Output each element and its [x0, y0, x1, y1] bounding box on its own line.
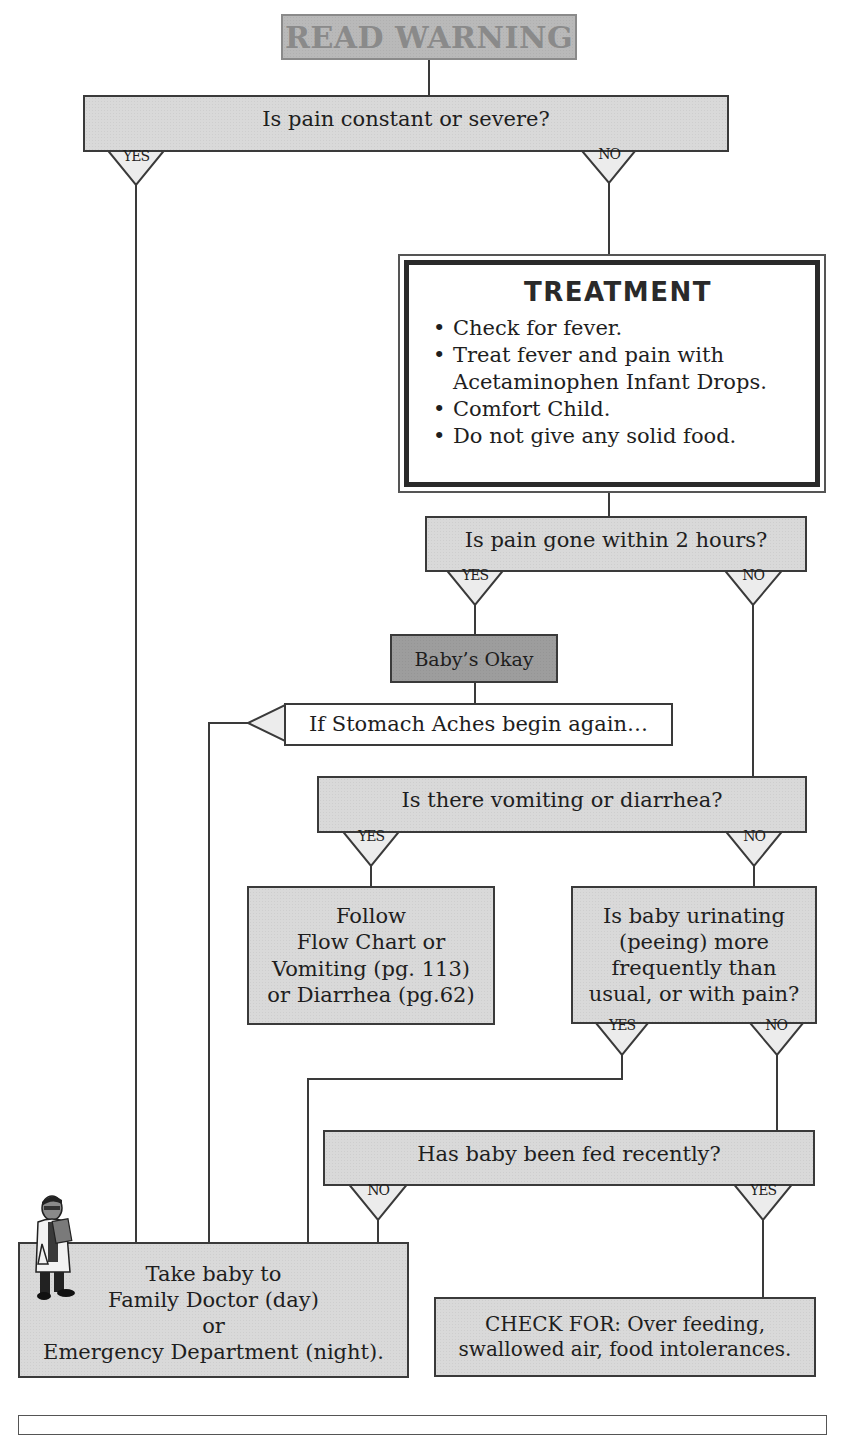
- treatment-item: Treat fever and pain with Acetaminophen …: [431, 342, 805, 396]
- branch-label-yes: YES: [455, 567, 495, 583]
- line: Vomiting (pg. 113): [272, 956, 470, 982]
- footer-note-box: [18, 1415, 827, 1435]
- question-pain-constant: Is pain constant or severe?: [83, 95, 729, 152]
- line: swallowed air, food intolerances.: [459, 1337, 792, 1362]
- branch-label-no: NO: [358, 1182, 398, 1198]
- branch-label-yes: YES: [351, 828, 391, 844]
- treatment-box: TREATMENT Check for fever. Treat fever a…: [398, 254, 826, 493]
- line: (peeing) more: [619, 929, 769, 955]
- doctor-illustration-icon: [30, 1192, 88, 1302]
- question-text: Is pain constant or severe?: [262, 107, 550, 132]
- line: frequently than: [612, 955, 777, 981]
- outcome-text: Baby’s Okay: [414, 648, 533, 670]
- line: or Diarrhea (pg.62): [267, 982, 474, 1008]
- line: Follow: [336, 903, 406, 929]
- question-text: Has baby been fed recently?: [417, 1142, 721, 1167]
- line: CHECK FOR: Over feeding,: [485, 1312, 765, 1337]
- stomach-aches-again-box: If Stomach Aches begin again…: [284, 703, 673, 746]
- branch-label-no: NO: [734, 828, 774, 844]
- line: usual, or with pain?: [589, 981, 800, 1007]
- question-fed-recently: Has baby been fed recently?: [323, 1130, 815, 1186]
- check-for-box: CHECK FOR: Over feeding, swallowed air, …: [434, 1297, 816, 1377]
- branch-label-no: NO: [733, 567, 773, 583]
- branch-label-no: NO: [589, 146, 629, 162]
- read-warning-box[interactable]: READ WARNING: [281, 14, 577, 60]
- line: Flow Chart or: [297, 929, 446, 955]
- note-text: If Stomach Aches begin again…: [309, 712, 648, 737]
- branch-label-yes: YES: [743, 1182, 783, 1198]
- line: Emergency Department (night).: [43, 1339, 384, 1365]
- treatment-inner-frame: TREATMENT Check for fever. Treat fever a…: [404, 260, 820, 487]
- treatment-item: Comfort Child.: [431, 396, 805, 423]
- treatment-list: Check for fever. Treat fever and pain wi…: [431, 315, 805, 450]
- line: Family Doctor (day): [108, 1287, 319, 1313]
- question-pain-gone: Is pain gone within 2 hours?: [425, 516, 807, 572]
- babys-okay-box: Baby’s Okay: [390, 634, 558, 683]
- question-text: Is pain gone within 2 hours?: [465, 528, 768, 553]
- branch-label-yes: YES: [602, 1017, 642, 1033]
- branch-label-yes: YES: [116, 148, 156, 164]
- question-text: Is there vomiting or diarrhea?: [401, 788, 722, 813]
- line: Is baby urinating: [603, 903, 785, 929]
- question-vomiting-diarrhea: Is there vomiting or diarrhea?: [317, 776, 807, 833]
- treatment-title: TREATMENT: [431, 277, 805, 307]
- read-warning-label: READ WARNING: [285, 20, 573, 55]
- line: or: [202, 1313, 225, 1339]
- treatment-item: Check for fever.: [431, 315, 805, 342]
- pointer-triangle-icon: [248, 705, 285, 741]
- follow-flowchart-box[interactable]: Follow Flow Chart or Vomiting (pg. 113) …: [247, 886, 495, 1025]
- branch-label-no: NO: [756, 1017, 796, 1033]
- question-urinating: Is baby urinating (peeing) more frequent…: [571, 886, 817, 1024]
- line: Take baby to: [146, 1261, 282, 1287]
- treatment-item: Do not give any solid food.: [431, 423, 805, 450]
